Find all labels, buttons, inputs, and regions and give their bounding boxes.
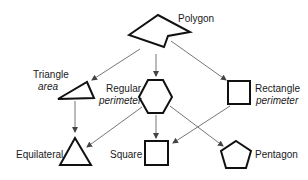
rectangle-label: Rectangle — [255, 83, 300, 94]
regular-attribute: perimeter — [99, 95, 141, 106]
equilateral-triangle-shape-icon[interactable] — [60, 138, 91, 165]
regular-label: Regular — [106, 83, 141, 94]
triangle-label: Triangle — [33, 69, 69, 80]
polygon-label: Polygon — [178, 13, 214, 24]
edge-polygon-triangle — [92, 49, 140, 80]
square-shape-icon[interactable] — [145, 141, 168, 165]
hexagon-shape-icon[interactable] — [139, 80, 172, 113]
edge-polygon-rectangle — [171, 41, 226, 80]
triangle-shape-icon[interactable] — [58, 82, 94, 99]
rectangle-shape-icon[interactable] — [228, 81, 250, 104]
pentagon-shape-icon[interactable] — [221, 141, 251, 168]
triangle-attribute: area — [38, 81, 58, 92]
edge-regular-equilateral — [87, 107, 142, 147]
pentagon-label: Pentagon — [255, 149, 298, 160]
rectangle-attribute: perimeter — [256, 95, 298, 106]
edge-rectangle-square — [173, 106, 230, 143]
square-label: Square — [110, 149, 142, 160]
equilateral-label: Equilateral — [16, 149, 63, 160]
